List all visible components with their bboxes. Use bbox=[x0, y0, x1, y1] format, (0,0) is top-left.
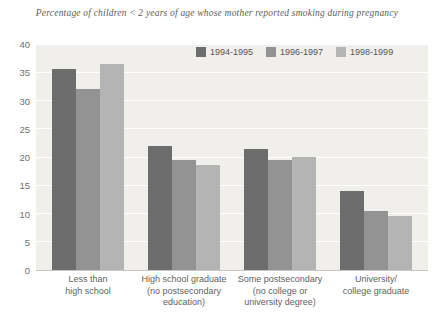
bar-group bbox=[148, 44, 220, 270]
bar-group bbox=[244, 44, 316, 270]
legend-swatch-icon bbox=[196, 47, 206, 57]
bar-group bbox=[52, 44, 124, 270]
y-axis-tick-label: 5 bbox=[6, 236, 30, 247]
x-axis-line bbox=[36, 270, 428, 271]
bar[interactable] bbox=[172, 160, 196, 270]
legend-item[interactable]: 1998-1999 bbox=[336, 47, 393, 57]
bar[interactable] bbox=[364, 211, 388, 270]
legend-item-label: 1994-1995 bbox=[210, 47, 253, 57]
bar[interactable] bbox=[148, 146, 172, 270]
bar[interactable] bbox=[244, 149, 268, 270]
legend-item[interactable]: 1994-1995 bbox=[196, 47, 253, 57]
bar[interactable] bbox=[292, 157, 316, 270]
y-axis-tick-label: 30 bbox=[6, 95, 30, 106]
y-axis-tick-label: 40 bbox=[6, 39, 30, 50]
y-axis-tick-label: 20 bbox=[6, 152, 30, 163]
bar[interactable] bbox=[388, 216, 412, 270]
legend-item[interactable]: 1996-1997 bbox=[266, 47, 323, 57]
y-axis-tick-label: 35 bbox=[6, 67, 30, 78]
x-axis-category-label-line: university degree) bbox=[220, 297, 340, 309]
x-axis-category-label-line: college graduate bbox=[316, 286, 434, 298]
legend-item-label: 1998-1999 bbox=[350, 47, 393, 57]
y-axis-tick-label: 0 bbox=[6, 265, 30, 276]
chart-legend: 1994-19951996-19971998-1999 bbox=[196, 47, 393, 57]
bar[interactable] bbox=[100, 64, 124, 270]
chart-title: Percentage of children < 2 years of age … bbox=[0, 8, 434, 18]
bar[interactable] bbox=[76, 89, 100, 270]
x-axis-category-label-line: University/ bbox=[316, 274, 434, 286]
x-axis-category-label: University/college graduate bbox=[316, 274, 434, 297]
bar[interactable] bbox=[52, 69, 76, 270]
legend-item-label: 1996-1997 bbox=[280, 47, 323, 57]
y-axis-tick-label: 25 bbox=[6, 123, 30, 134]
bar[interactable] bbox=[196, 165, 220, 270]
x-axis-labels: Less thanhigh schoolHigh school graduate… bbox=[36, 274, 428, 326]
y-axis-tick-label: 15 bbox=[6, 180, 30, 191]
bar[interactable] bbox=[268, 160, 292, 270]
legend-swatch-icon bbox=[336, 47, 346, 57]
y-axis-tick-label: 10 bbox=[6, 208, 30, 219]
legend-swatch-icon bbox=[266, 47, 276, 57]
bar[interactable] bbox=[340, 191, 364, 270]
bars-layer bbox=[36, 44, 428, 270]
bar-group bbox=[340, 44, 412, 270]
